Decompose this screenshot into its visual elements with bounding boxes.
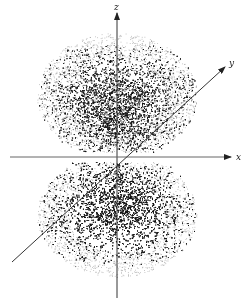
y-axis: [12, 67, 225, 262]
axes-overlay: z y x: [0, 0, 247, 298]
y-axis-label: y: [228, 58, 235, 68]
x-axis-label: x: [236, 152, 241, 162]
orbital-diagram: z y x: [0, 0, 247, 298]
z-axis-label: z: [113, 2, 119, 12]
